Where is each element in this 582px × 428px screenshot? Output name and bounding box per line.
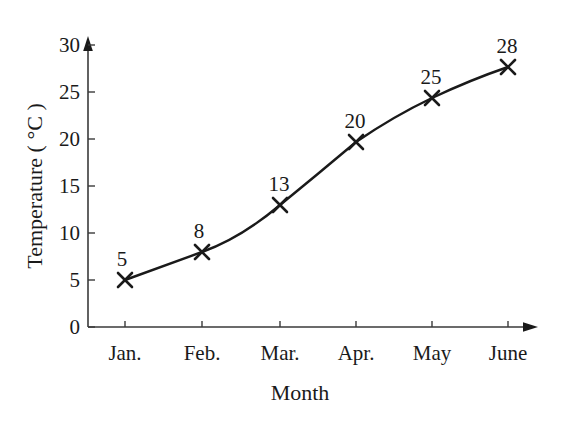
data-point-may [425, 91, 439, 105]
x-axis-title: Month [271, 380, 330, 405]
data-point-apr [349, 135, 363, 149]
point-label-apr: 20 [345, 109, 366, 133]
y-tick-label-0: 0 [70, 315, 81, 339]
x-axis-arrow-icon [523, 322, 538, 332]
point-label-june: 28 [497, 34, 518, 58]
x-tick-label-may: May [413, 341, 452, 365]
y-axis-ticks [88, 45, 95, 327]
point-label-may: 25 [421, 65, 442, 89]
y-axis-title: Temperature ( °C ) [22, 103, 47, 268]
chart-figure: 0 5 10 15 20 25 30 Jan. Feb. Mar. Apr. M… [0, 0, 582, 428]
data-point-jan [118, 273, 132, 287]
data-point-feb [195, 245, 209, 259]
y-tick-label-25: 25 [59, 80, 80, 104]
y-axis-arrow-icon [83, 36, 93, 51]
line-chart: 0 5 10 15 20 25 30 Jan. Feb. Mar. Apr. M… [0, 0, 582, 428]
x-axis-ticks [125, 321, 508, 327]
x-tick-label-feb: Feb. [184, 341, 221, 365]
data-point-mar [273, 198, 287, 212]
temperature-series-line [125, 67, 508, 280]
point-label-feb: 8 [194, 219, 205, 243]
point-label-jan: 5 [117, 247, 128, 271]
point-label-mar: 13 [269, 172, 290, 196]
x-tick-label-mar: Mar. [260, 341, 299, 365]
y-tick-label-20: 20 [59, 127, 80, 151]
y-tick-label-10: 10 [59, 221, 80, 245]
y-tick-label-15: 15 [59, 174, 80, 198]
data-point-june [501, 60, 515, 74]
x-tick-label-june: June [489, 341, 528, 365]
x-tick-label-apr: Apr. [338, 341, 375, 365]
x-tick-label-jan: Jan. [108, 341, 141, 365]
y-tick-label-5: 5 [70, 268, 81, 292]
y-tick-label-30: 30 [59, 33, 80, 57]
